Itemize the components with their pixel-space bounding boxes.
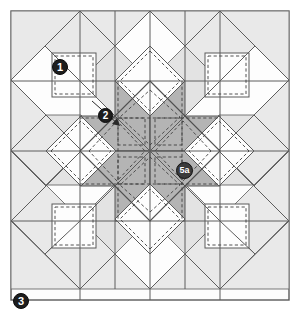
white-square-top-right [205,53,249,97]
callout-label-5a[interactable]: 5a [176,162,193,179]
white-square-bottom-right [205,204,249,248]
callout-label-3[interactable]: 3 [13,293,29,309]
quilt-block-svg [0,0,301,318]
callout-label-1[interactable]: 1 [52,59,68,75]
callout-label-2[interactable]: 2 [98,108,113,123]
quilt-diagram-stage: 1 2 5a 3 [0,0,301,318]
